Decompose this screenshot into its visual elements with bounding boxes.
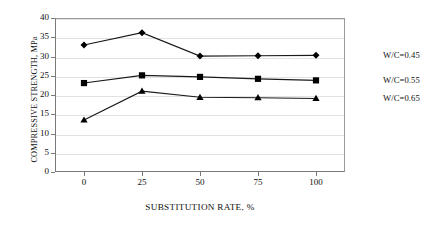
y-tick: 5 xyxy=(0,148,49,158)
x-tick-label: 25 xyxy=(122,178,162,187)
y-tick-label: 25 xyxy=(25,71,49,80)
y-tick: 20 xyxy=(0,90,49,100)
y-tick: 30 xyxy=(0,52,49,62)
y-tick-mark xyxy=(51,172,55,173)
chart-figure: COMPRESSIVE STRENGTH, MPa 05101520253035… xyxy=(0,0,445,227)
x-tick-label: 50 xyxy=(180,178,220,187)
series-label-wc-045: W/C=0.45 xyxy=(383,50,420,60)
y-tick: 10 xyxy=(0,129,49,139)
y-tick-label: 40 xyxy=(25,13,49,22)
y-tick: 25 xyxy=(0,71,49,81)
x-tick-mark xyxy=(200,172,201,176)
gridline xyxy=(56,58,344,59)
y-tick-label: 15 xyxy=(25,109,49,118)
x-tick-mark xyxy=(258,172,259,176)
x-tick-mark xyxy=(316,172,317,176)
x-tick-mark xyxy=(142,172,143,176)
plot-area xyxy=(55,18,345,172)
y-tick-label: 20 xyxy=(25,90,49,99)
gridline xyxy=(56,77,344,78)
series-label-wc-065: W/C=0.65 xyxy=(383,93,420,103)
gridline xyxy=(56,115,344,116)
gridline xyxy=(56,154,344,155)
y-tick-label: 5 xyxy=(25,148,49,157)
y-tick: 0 xyxy=(0,167,49,177)
x-axis-title: SUBSTITUTION RATE, % xyxy=(55,202,345,212)
gridline xyxy=(56,19,344,20)
y-tick: 15 xyxy=(0,109,49,119)
x-tick-label: 0 xyxy=(64,178,104,187)
y-tick-label: 0 xyxy=(25,167,49,176)
y-tick-label: 30 xyxy=(25,52,49,61)
y-tick-label: 35 xyxy=(25,32,49,41)
y-tick: 35 xyxy=(0,32,49,42)
y-tick-label: 10 xyxy=(25,129,49,138)
series-label-wc-055: W/C=0.55 xyxy=(383,75,420,85)
x-tick-label: 100 xyxy=(296,178,336,187)
gridline xyxy=(56,38,344,39)
gridline xyxy=(56,135,344,136)
x-tick-mark xyxy=(84,172,85,176)
y-tick: 40 xyxy=(0,13,49,23)
x-tick-label: 75 xyxy=(238,178,278,187)
gridline xyxy=(56,96,344,97)
